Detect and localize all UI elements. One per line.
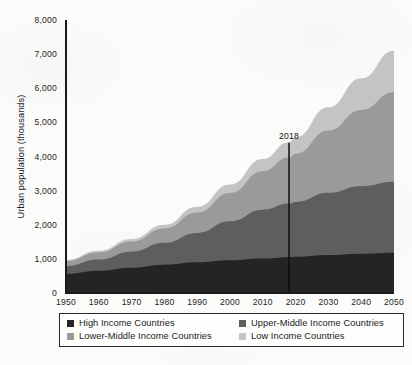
x-tick-label: 2010 — [253, 297, 273, 307]
x-axis-tick-labels: 1950196019701980199020002010202020302040… — [56, 297, 404, 307]
y-tick-label: 8,000 — [34, 15, 57, 25]
chart-legend: High Income CountriesUpper-Middle Income… — [59, 313, 404, 347]
legend-swatch — [67, 320, 74, 327]
legend-item: Upper-Middle Income Countries — [239, 318, 396, 328]
legend-swatch — [239, 333, 246, 340]
legend-item: Lower-Middle Income Countries — [67, 331, 235, 341]
legend-label: Upper-Middle Income Countries — [251, 318, 384, 328]
legend-label: Low Income Countries — [251, 331, 345, 341]
legend-swatch — [239, 320, 246, 327]
y-tick-label: 6,000 — [34, 83, 57, 93]
legend-item: Low Income Countries — [239, 331, 396, 341]
y-tick-label: 4,000 — [34, 152, 57, 162]
x-tick-label: 1970 — [122, 297, 142, 307]
y-tick-label: 2,000 — [34, 220, 57, 230]
legend-label: High Income Countries — [79, 318, 175, 328]
legend-label: Lower-Middle Income Countries — [79, 331, 212, 341]
y-tick-label: 1,000 — [34, 254, 57, 264]
y-tick-label: 7,000 — [34, 49, 57, 59]
x-tick-label: 2050 — [384, 297, 404, 307]
urban-population-stacked-area-chart: 2018 01,0002,0003,0004,0005,0006,0007,00… — [0, 0, 412, 365]
x-tick-label: 2040 — [351, 297, 371, 307]
x-tick-label: 2000 — [220, 297, 240, 307]
y-tick-label: 3,000 — [34, 186, 57, 196]
y-axis-title: Urban population (thousands) — [16, 95, 26, 219]
x-tick-label: 2030 — [318, 297, 338, 307]
chart-canvas: 2018 01,0002,0003,0004,0005,0006,0007,00… — [0, 0, 412, 310]
x-tick-label: 1990 — [187, 297, 207, 307]
x-tick-label: 2020 — [286, 297, 306, 307]
y-axis-tick-labels: 01,0002,0003,0004,0005,0006,0007,0008,00… — [34, 15, 57, 298]
y-tick-label: 5,000 — [34, 117, 57, 127]
annotation-label-2018: 2018 — [279, 131, 299, 141]
stacked-areas — [66, 51, 394, 293]
legend-item: High Income Countries — [67, 318, 235, 328]
x-tick-label: 1960 — [89, 297, 109, 307]
x-tick-label: 1950 — [56, 297, 76, 307]
x-tick-label: 1980 — [154, 297, 174, 307]
legend-swatch — [67, 333, 74, 340]
